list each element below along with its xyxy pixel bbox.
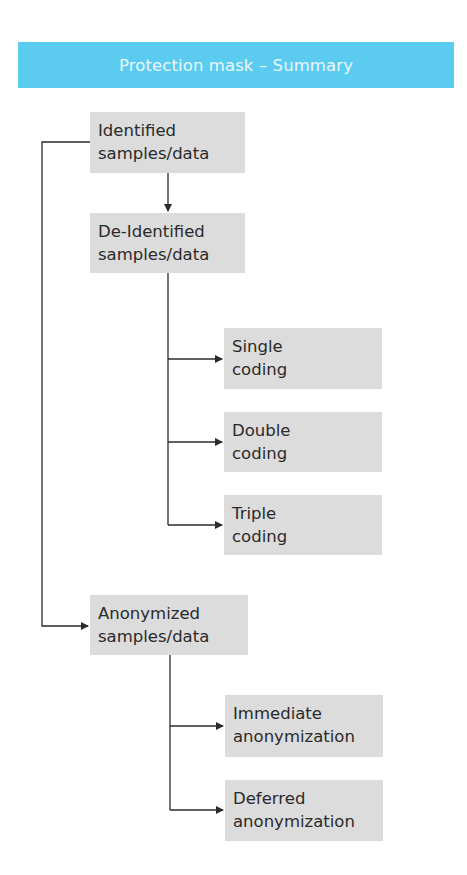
node-deidentified: De-Identified samples/data: [90, 213, 245, 273]
node-label: De-Identified samples/data: [98, 220, 245, 266]
node-single-coding: Single coding: [224, 328, 382, 389]
node-immediate-anonymization: Immediate anonymization: [225, 695, 383, 757]
node-label: Triple coding: [232, 502, 382, 548]
node-double-coding: Double coding: [224, 412, 382, 472]
node-label: Single coding: [232, 335, 382, 381]
node-label: Immediate anonymization: [233, 702, 383, 748]
node-label: Double coding: [232, 419, 382, 465]
node-label: Deferred anonymization: [233, 787, 383, 833]
node-anonymized: Anonymized samples/data: [90, 595, 248, 655]
node-label: Anonymized samples/data: [98, 602, 248, 648]
node-identified: Identified samples/data: [90, 112, 245, 173]
node-label: Identified samples/data: [98, 119, 245, 165]
node-triple-coding: Triple coding: [224, 495, 382, 555]
node-deferred-anonymization: Deferred anonymization: [225, 780, 383, 841]
